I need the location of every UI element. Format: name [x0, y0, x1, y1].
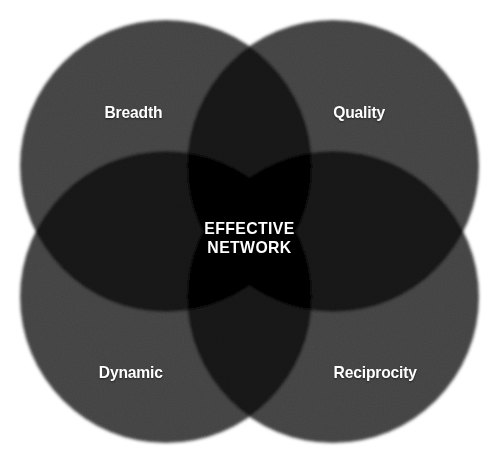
venn-circles-canvas — [0, 0, 499, 462]
venn-diagram: Breadth Quality Dynamic Reciprocity EFFE… — [0, 0, 499, 462]
circle-reciprocity — [187, 151, 479, 443]
